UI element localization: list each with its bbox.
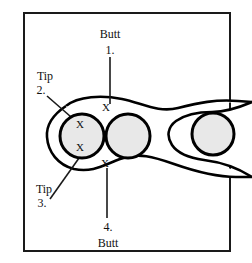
figure-container: X X X X Butt 1. Tip 2. Tip 3. 4. Butt [0, 0, 252, 263]
label-number-3: 3. [38, 196, 47, 210]
vesicle-right [192, 113, 234, 155]
x-mark-bottom-center: X [101, 157, 109, 169]
anatomical-diagram: X X X X Butt 1. Tip 2. Tip 3. 4. Butt [0, 0, 252, 263]
x-mark-top-center: X [102, 101, 110, 113]
label-butt-bottom: Butt [98, 236, 119, 250]
label-tip-lower: Tip [36, 182, 52, 196]
label-number-4: 4. [104, 220, 113, 234]
organ-outline-upper-edge [66, 97, 252, 110]
x-mark-left-lower: X [76, 141, 84, 153]
x-mark-left-upper: X [76, 118, 84, 130]
label-tip-upper: Tip [37, 69, 53, 83]
label-number-2: 2. [37, 83, 46, 97]
vesicle-middle [106, 114, 150, 158]
label-number-1: 1. [106, 43, 115, 57]
label-butt-top: Butt [100, 27, 121, 41]
